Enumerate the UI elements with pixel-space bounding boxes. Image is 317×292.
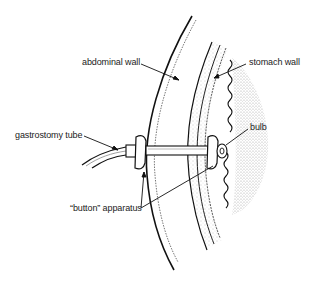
label-abdominal-wall: abdominal wall [82,57,140,67]
label-gastrostomy-tube: gastrostomy tube [15,130,82,140]
label-stomach-wall: stomach wall [249,57,300,67]
label-button-apparatus: “button” apparatus [70,203,142,213]
button-apparatus-shape [126,136,227,169]
leader-lines [84,64,248,208]
label-bulb: bulb [250,122,267,132]
abdominal-wall-shape [146,16,196,270]
gastrostomy-tube-shape [82,147,126,168]
gastrostomy-diagram [0,0,317,292]
leader-abdominal-wall [141,64,179,80]
